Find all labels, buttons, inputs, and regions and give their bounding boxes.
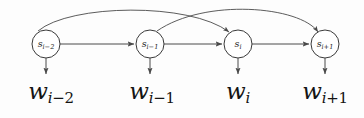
observation-base-w-i-1: w: [129, 78, 149, 104]
emission-edges: [46, 58, 325, 74]
observation-base-w-i+1: w: [302, 78, 322, 104]
state-node-labels: si−2 si−1 si si+1: [38, 38, 334, 51]
observation-base-w-i: w: [226, 78, 246, 104]
observation-label-w-i+1: wi+1: [302, 80, 348, 106]
skip-edge-s-i-1-to-s-i+1: [157, 9, 318, 32]
diagram-canvas: si−2 si−1 si si+1 wi−2 wi−1 wi: [0, 0, 364, 118]
observation-sub-w-i-2: i−2: [48, 89, 74, 107]
observation-label-w-i: wi: [226, 80, 250, 106]
observation-label-w-i-1: wi−1: [129, 80, 175, 106]
observation-sub-w-i-1: i−1: [149, 89, 175, 107]
observation-sub-w-i: i: [246, 89, 251, 107]
skip-edges: [38, 9, 318, 32]
observation-base-w-i-2: w: [28, 78, 48, 104]
observation-label-w-i-2: wi−2: [28, 80, 74, 106]
observation-sub-w-i+1: i+1: [322, 89, 348, 107]
